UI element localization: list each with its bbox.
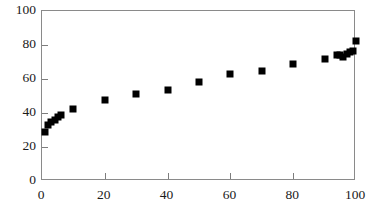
y-axis-tick-label: 40 bbox=[0, 105, 36, 119]
y-axis-tick-label: 0 bbox=[0, 173, 36, 187]
data-point bbox=[164, 87, 171, 94]
x-axis-tick-label: 60 bbox=[207, 188, 251, 202]
x-axis-tick-label: 80 bbox=[270, 188, 314, 202]
data-point bbox=[70, 105, 77, 112]
x-axis-tick-label: 20 bbox=[82, 188, 126, 202]
data-point bbox=[101, 97, 108, 104]
x-axis-tick bbox=[105, 173, 106, 179]
data-point bbox=[353, 37, 360, 44]
y-axis-tick bbox=[42, 45, 48, 46]
data-point bbox=[133, 91, 140, 98]
x-axis-tick bbox=[293, 173, 294, 179]
y-axis-tick-label: 60 bbox=[0, 71, 36, 85]
y-axis-tick bbox=[42, 79, 48, 80]
plot-area bbox=[42, 11, 354, 179]
plot-frame bbox=[41, 10, 355, 180]
data-point bbox=[258, 67, 265, 74]
y-axis-tick-label: 80 bbox=[0, 37, 36, 51]
data-point bbox=[321, 56, 328, 63]
x-axis-tick bbox=[230, 173, 231, 179]
y-axis-tick bbox=[42, 147, 48, 148]
y-axis-tick-label: 20 bbox=[0, 139, 36, 153]
data-point bbox=[227, 70, 234, 77]
x-axis-tick-label: 40 bbox=[145, 188, 189, 202]
y-axis-tick-label: 100 bbox=[0, 3, 36, 17]
scatter-chart: 020406080100 020406080100 bbox=[0, 0, 374, 220]
data-point bbox=[196, 79, 203, 86]
y-axis-tick bbox=[42, 113, 48, 114]
x-axis-tick bbox=[168, 173, 169, 179]
data-point bbox=[57, 111, 64, 118]
x-axis-tick-label: 0 bbox=[19, 188, 63, 202]
data-point bbox=[42, 128, 49, 135]
data-point bbox=[290, 60, 297, 67]
data-point bbox=[349, 47, 356, 54]
x-axis-tick-label: 100 bbox=[333, 188, 374, 202]
